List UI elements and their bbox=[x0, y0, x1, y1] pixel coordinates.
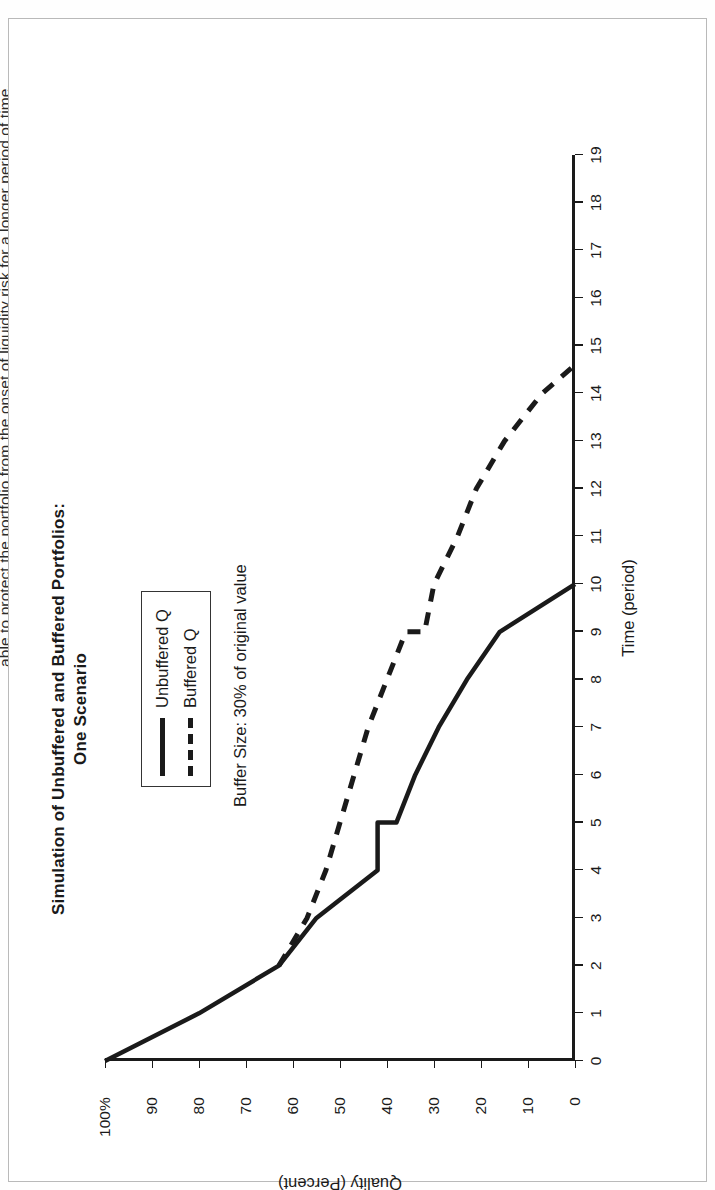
x-axis-tick-label: 8 bbox=[587, 675, 605, 684]
scanned-page: able to protect the portfolio from the o… bbox=[0, 0, 715, 1190]
x-axis-tick-label: 5 bbox=[587, 818, 605, 827]
y-axis-tick bbox=[340, 1061, 341, 1068]
x-axis-tick-label: 9 bbox=[587, 628, 605, 637]
x-axis-tick bbox=[575, 964, 583, 965]
y-axis-tick-label: 60 bbox=[284, 1097, 302, 1114]
x-axis-tick-label: 2 bbox=[587, 961, 605, 970]
x-axis-tick bbox=[575, 678, 583, 679]
x-axis-tick bbox=[575, 1012, 583, 1013]
x-axis-tick bbox=[575, 201, 583, 202]
x-axis-tick bbox=[575, 154, 583, 155]
chart-title-line-2: One Scenario bbox=[71, 429, 91, 989]
x-axis-title: Time (period) bbox=[619, 559, 638, 657]
x-axis-tick-label: 14 bbox=[587, 385, 605, 402]
y-axis-tick bbox=[387, 1061, 388, 1068]
x-axis-tick-label: 0 bbox=[587, 1057, 605, 1066]
plot-area: Quality (Percent) Time (period) 01020304… bbox=[105, 155, 575, 1061]
x-axis-tick bbox=[575, 821, 583, 822]
figure-frame: Simulation of Unbuffered and Buffered Po… bbox=[8, 18, 707, 1182]
x-axis-tick bbox=[575, 583, 583, 584]
x-axis-tick-label: 12 bbox=[587, 480, 605, 497]
x-axis-tick bbox=[575, 726, 583, 727]
x-axis-tick bbox=[575, 535, 583, 536]
x-axis-tick bbox=[575, 630, 583, 631]
y-axis-tick-label: 30 bbox=[425, 1097, 443, 1114]
x-axis-tick bbox=[575, 344, 583, 345]
y-axis-tick-label: 10 bbox=[519, 1097, 537, 1114]
x-axis-tick-label: 10 bbox=[587, 576, 605, 593]
y-axis-tick-label: 0 bbox=[566, 1097, 584, 1106]
series-lines bbox=[105, 155, 575, 1061]
y-axis-tick bbox=[293, 1061, 294, 1068]
y-axis-tick bbox=[199, 1061, 200, 1068]
x-axis-tick-label: 15 bbox=[587, 337, 605, 354]
y-axis-tick bbox=[246, 1061, 247, 1068]
series-line-buffered-q bbox=[279, 365, 575, 966]
x-axis-tick bbox=[575, 392, 583, 393]
x-axis-tick bbox=[575, 917, 583, 918]
x-axis-tick-label: 6 bbox=[587, 771, 605, 780]
x-axis-tick bbox=[575, 1060, 583, 1061]
y-axis-tick-label: 80 bbox=[190, 1097, 208, 1114]
y-axis-tick bbox=[575, 1061, 576, 1068]
y-axis-title: Quality (Percent) bbox=[278, 1174, 402, 1190]
x-axis-tick-label: 19 bbox=[587, 146, 605, 163]
x-axis-tick-label: 16 bbox=[587, 289, 605, 306]
y-axis-tick-label: 20 bbox=[472, 1097, 490, 1114]
y-axis-tick bbox=[481, 1061, 482, 1068]
y-axis-tick-label: 70 bbox=[237, 1097, 255, 1114]
x-axis-tick-label: 7 bbox=[587, 723, 605, 732]
x-axis-tick-label: 4 bbox=[587, 866, 605, 875]
y-axis-tick-label: 90 bbox=[143, 1097, 161, 1114]
x-axis-tick-label: 1 bbox=[587, 1009, 605, 1018]
x-axis-tick bbox=[575, 774, 583, 775]
x-axis-tick-label: 13 bbox=[587, 432, 605, 449]
x-axis-tick-label: 11 bbox=[587, 528, 605, 544]
y-axis-tick bbox=[528, 1061, 529, 1068]
x-axis-tick bbox=[575, 487, 583, 488]
x-axis-tick bbox=[575, 249, 583, 250]
x-axis-tick bbox=[575, 440, 583, 441]
y-axis-tick-label: 100% bbox=[96, 1097, 114, 1137]
x-axis-tick bbox=[575, 869, 583, 870]
y-axis-tick bbox=[434, 1061, 435, 1068]
y-axis-tick-label: 40 bbox=[378, 1097, 396, 1114]
x-axis-tick bbox=[575, 297, 583, 298]
y-axis-tick bbox=[152, 1061, 153, 1068]
chart-title-line-1: Simulation of Unbuffered and Buffered Po… bbox=[49, 429, 69, 989]
x-axis-tick-label: 17 bbox=[587, 242, 605, 259]
rotated-chart-canvas: Simulation of Unbuffered and Buffered Po… bbox=[9, 19, 704, 1179]
y-axis-tick-label: 50 bbox=[331, 1097, 349, 1114]
x-axis-tick-label: 3 bbox=[587, 914, 605, 923]
x-axis-tick-label: 18 bbox=[587, 194, 605, 211]
y-axis-tick bbox=[105, 1061, 106, 1068]
